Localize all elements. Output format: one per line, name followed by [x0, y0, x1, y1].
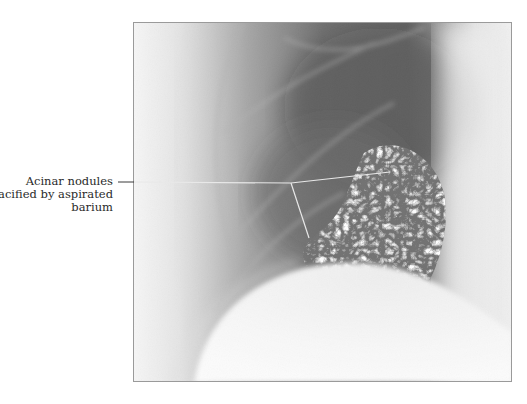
annotated-radiograph-figure: Acinar nodules opacified by aspirated ba… [0, 0, 527, 404]
leader-line-branch-upper [291, 172, 390, 183]
leader-line-main [134, 182, 291, 183]
leader-line-branch-lower [291, 183, 309, 238]
annotation-leader-lines [0, 0, 527, 404]
